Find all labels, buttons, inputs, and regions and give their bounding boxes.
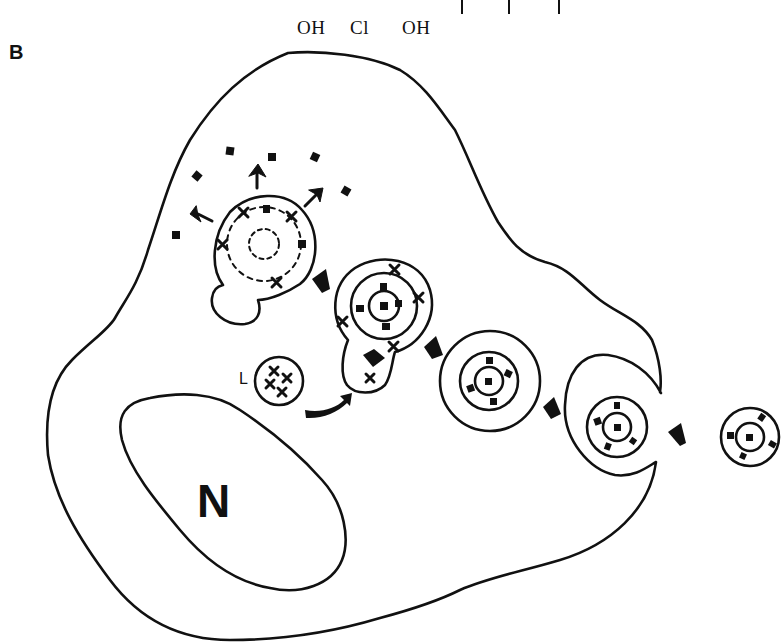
ligand-squares	[172, 146, 777, 460]
cell-membrane	[47, 52, 661, 640]
nucleus-label: N	[197, 474, 230, 528]
nucleus	[120, 394, 345, 590]
lysosome	[255, 357, 303, 405]
cell-diagram-svg	[0, 0, 781, 644]
diagram-stage: OH Cl OH B	[0, 0, 781, 644]
release-arrows	[190, 164, 323, 222]
lysosome-label: L	[239, 370, 248, 388]
phagolysosome-membrane	[212, 196, 316, 324]
degrading-particle-inner	[249, 229, 279, 259]
